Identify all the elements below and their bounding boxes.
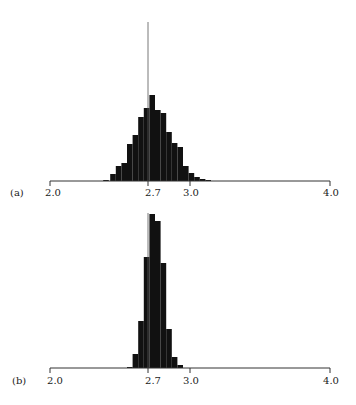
histogram-bar bbox=[155, 110, 161, 181]
histogram-bar bbox=[144, 257, 150, 368]
histogram-bar bbox=[172, 143, 178, 181]
histogram-bar bbox=[149, 214, 155, 368]
histogram-bar bbox=[138, 321, 144, 368]
histogram-bar bbox=[138, 117, 144, 181]
tick-label-a-3-0: 3.0 bbox=[183, 187, 199, 199]
histogram-bar bbox=[189, 173, 195, 181]
histogram-bar bbox=[121, 163, 127, 181]
histogram-bar bbox=[133, 354, 139, 368]
histogram-a-plot bbox=[0, 0, 356, 200]
histogram-bar bbox=[144, 108, 150, 181]
histogram-bar bbox=[149, 95, 155, 181]
histogram-panel-a: (a) 2.0 2.7 3.0 4.0 bbox=[0, 0, 356, 200]
tick-label-a-2-7: 2.7 bbox=[145, 187, 161, 199]
tick-label-b-4-0: 4.0 bbox=[323, 375, 339, 387]
tick-label-b-2-7: 2.7 bbox=[145, 375, 161, 387]
histogram-bar bbox=[194, 177, 200, 181]
histogram-bar bbox=[133, 135, 139, 181]
tick-label-a-4-0: 4.0 bbox=[323, 187, 339, 199]
tick-label-b-2-0: 2.0 bbox=[47, 375, 63, 387]
histogram-bar bbox=[110, 174, 116, 181]
histogram-bar bbox=[127, 144, 133, 181]
histogram-bar bbox=[166, 329, 172, 368]
panel-label-b: (b) bbox=[12, 375, 26, 387]
histogram-bar bbox=[183, 166, 189, 181]
panel-label-a: (a) bbox=[10, 187, 24, 199]
histogram-bar bbox=[177, 147, 183, 181]
tick-label-a-2-0: 2.0 bbox=[45, 187, 61, 199]
histogram-panel-b: (b) 2.0 2.7 3.0 4.0 bbox=[0, 200, 356, 405]
histogram-bar bbox=[116, 166, 122, 181]
tick-label-b-3-0: 3.0 bbox=[183, 375, 199, 387]
histogram-bar bbox=[161, 113, 167, 181]
histogram-bar bbox=[155, 221, 161, 368]
histogram-bar bbox=[166, 132, 172, 181]
histogram-bar bbox=[172, 357, 178, 368]
histogram-bar bbox=[161, 263, 167, 368]
